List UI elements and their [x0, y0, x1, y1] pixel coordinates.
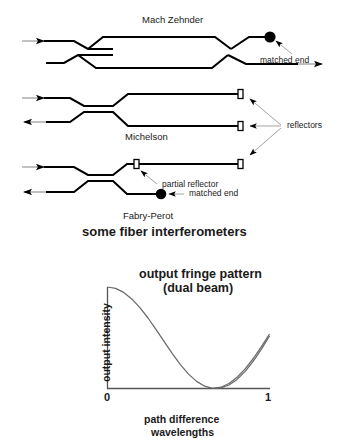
mi-reflector-lower: [238, 122, 243, 131]
mz-matched-end-dot: [264, 31, 275, 42]
fp-matched-end-dot: [156, 189, 167, 200]
fabry-perot-label: Fabry-Perot: [123, 211, 173, 222]
mz-upper-input-fiber: [44, 41, 113, 49]
mz-matched-end-leader: [276, 41, 292, 54]
fp-matched-end-label: matched end: [189, 189, 238, 199]
mz-lower-arm: [78, 55, 228, 68]
chart-title: output fringe pattern: [139, 267, 262, 281]
fp-end-reflector: [238, 160, 243, 169]
chart-subtitle: (dual beam): [163, 281, 233, 295]
fp-upper-fiber: [44, 164, 240, 175]
chart-x-tick-1: 1: [265, 391, 271, 403]
michelson-diagram: [22, 90, 281, 156]
chart-fringe-curve-tail: [213, 334, 270, 388]
fringe-chart-graphics: [107, 287, 270, 389]
figure-artwork: [0, 0, 343, 446]
mz-upper-arm: [88, 37, 231, 49]
fp-partial-reflector: [134, 160, 139, 169]
mi-upper-fiber: [44, 94, 240, 106]
mz-upper-output-fiber: [231, 37, 266, 49]
mach-zehnder-label: Mach Zehnder: [142, 15, 203, 26]
fiber-interferometers-figure: Mach Zehnder matched end Michelson refle…: [0, 0, 343, 446]
chart-x-axis-label-line2: wavelengths: [151, 427, 214, 439]
reflectors-label: reflectors: [287, 121, 322, 131]
fp-partial-reflector-leader: [141, 171, 157, 184]
chart-x-tick-0: 0: [104, 391, 110, 403]
michelson-label: Michelson: [125, 132, 168, 143]
figure-caption: some fiber interferometers: [82, 225, 247, 240]
reflectors-leader-lower: [250, 128, 281, 155]
chart-fringe-curve: [108, 287, 270, 388]
chart-x-axis-label-line1: path difference: [144, 414, 219, 426]
mi-lower-fiber: [46, 112, 240, 126]
mi-reflector-upper: [238, 90, 243, 99]
mz-matched-end-label: matched end: [260, 56, 309, 66]
reflectors-leader-upper: [250, 99, 281, 125]
fp-lower-fiber: [46, 181, 158, 194]
chart-y-axis-label: output intensity: [101, 303, 113, 382]
